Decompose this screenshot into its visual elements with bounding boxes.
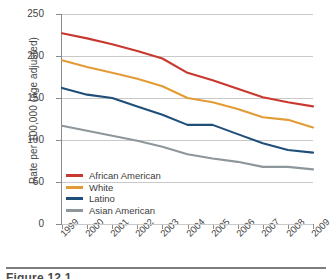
figure-container: Rate per 100,000 (age adjusted) 05010015… — [0, 0, 332, 279]
y-tick-mark-250 — [56, 14, 61, 15]
y-tick-label-150: 150 — [0, 93, 44, 103]
y-tick-mark-50 — [56, 182, 61, 183]
line-white — [62, 60, 313, 127]
legend-item-latino: Latino — [66, 193, 161, 205]
y-tick-mark-100 — [56, 140, 61, 141]
legend-swatch-icon — [66, 197, 83, 200]
legend-label: White — [89, 183, 113, 193]
legend-item-asian-american: Asian American — [66, 205, 161, 217]
y-tick-mark-0 — [56, 224, 61, 225]
y-tick-label-250: 250 — [0, 9, 44, 19]
legend-swatch-icon — [66, 174, 83, 177]
legend-swatch-icon — [66, 186, 83, 189]
y-tick-mark-200 — [56, 56, 61, 57]
y-tick-label-50: 50 — [0, 177, 44, 187]
legend-label: African American — [89, 171, 161, 181]
figure-caption: Figure 12.1 — [6, 271, 72, 279]
legend: African AmericanWhiteLatinoAsian America… — [66, 170, 161, 216]
legend-label: Asian American — [89, 206, 155, 216]
gridline-0 — [62, 224, 313, 225]
y-tick-label-0: 0 — [0, 219, 44, 229]
legend-swatch-icon — [66, 209, 83, 212]
caption-divider — [6, 267, 326, 269]
legend-item-white: White — [66, 182, 161, 194]
y-tick-label-100: 100 — [0, 135, 44, 145]
y-tick-mark-150 — [56, 98, 61, 99]
y-tick-label-200: 200 — [0, 51, 44, 61]
legend-item-african-american: African American — [66, 170, 161, 182]
legend-label: Latino — [89, 194, 115, 204]
